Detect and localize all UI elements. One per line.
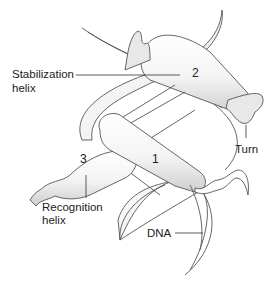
helix-1 — [99, 113, 248, 195]
helix-number-2: 2 — [192, 66, 199, 80]
helix-number-3: 3 — [80, 152, 87, 166]
label-recognition: Recognition — [42, 201, 103, 213]
label-stabilization: Stabilization — [12, 68, 74, 80]
label-stabilization-helix: helix — [12, 82, 36, 94]
dna-backbone-front — [120, 185, 202, 250]
helix-number-1: 1 — [152, 152, 159, 166]
helix-turn-helix-figure: Stabilization helix Recognition helix Tu… — [0, 0, 279, 290]
label-recognition-helix: helix — [42, 214, 66, 226]
label-turn: Turn — [235, 143, 258, 155]
label-dna: DNA — [147, 227, 172, 239]
diagram-canvas: Stabilization helix Recognition helix Tu… — [0, 0, 279, 290]
